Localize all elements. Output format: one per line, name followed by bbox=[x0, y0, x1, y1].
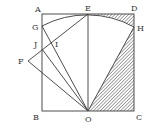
label-i: I bbox=[55, 40, 58, 49]
label-a: A bbox=[34, 5, 41, 14]
label-j: J bbox=[33, 40, 37, 49]
label-h: H bbox=[137, 24, 144, 33]
label-g: G bbox=[32, 23, 38, 32]
segment-jo bbox=[42, 49, 88, 111]
shaded-region-corner-d bbox=[88, 14, 134, 27]
label-o: O bbox=[85, 115, 92, 124]
segment-go bbox=[42, 26, 88, 111]
segment-fo bbox=[28, 61, 88, 111]
label-d: D bbox=[131, 4, 137, 13]
geometry-diagram: A E D G H J I F B O C bbox=[0, 0, 154, 133]
label-e: E bbox=[85, 4, 91, 13]
segment-fe bbox=[28, 14, 88, 61]
label-f: F bbox=[18, 57, 24, 66]
label-b: B bbox=[33, 113, 39, 122]
label-c: C bbox=[136, 113, 142, 122]
